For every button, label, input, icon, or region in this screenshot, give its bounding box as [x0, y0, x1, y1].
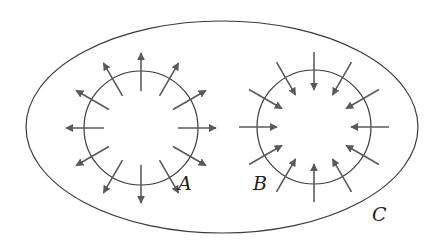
arrow-icon: [173, 91, 206, 110]
arrow-icon: [173, 147, 206, 166]
arrow-icon: [277, 62, 296, 95]
arrow-icon: [346, 146, 379, 165]
arrow-icon: [160, 63, 179, 96]
arrow-icon: [76, 147, 109, 166]
outward-arrows: [66, 53, 216, 203]
circle-a-source: [66, 53, 216, 203]
arrow-icon: [160, 160, 179, 193]
label-a: A: [176, 172, 192, 194]
arrow-icon: [249, 146, 282, 165]
arrow-icon: [346, 90, 379, 109]
arrow-icon: [104, 63, 123, 96]
arrow-icon: [333, 62, 352, 95]
arrow-icon: [76, 91, 109, 110]
label-c: C: [372, 203, 387, 225]
label-b: B: [252, 172, 267, 194]
arrow-icon: [249, 90, 282, 109]
arrow-icon: [333, 159, 352, 192]
arrow-icon: [104, 160, 123, 193]
arrow-icon: [277, 159, 296, 192]
vector-field-diagram: A B C: [0, 0, 444, 240]
